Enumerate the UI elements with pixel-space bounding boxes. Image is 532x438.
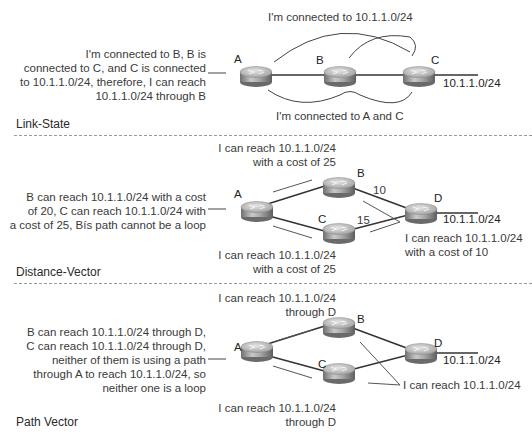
description-line: a cost of 25, Bís path cannot be a loop <box>10 218 206 232</box>
section-title-path-vector: Path Vector <box>16 415 78 429</box>
advert-c-to-a <box>273 366 312 378</box>
network-label: 10.1.1.0/24 <box>443 213 501 225</box>
cost-b-d: 10 <box>373 183 386 197</box>
router-a-label: A <box>234 188 242 200</box>
section-divider <box>14 135 532 136</box>
router-b-label: B <box>357 313 365 325</box>
advert-d-to-b <box>360 342 400 385</box>
annotation-line: through D <box>218 305 336 319</box>
router-b-label: B <box>357 167 365 179</box>
annotation-bottom: I can reach 10.1.1.0/24 through D <box>218 401 336 429</box>
annotation-right: I can reach 10.1.1.0/24 <box>403 378 521 392</box>
annotation-line: through D <box>218 415 336 429</box>
advert-c-to-a <box>273 226 312 238</box>
network-label: 10.1.1.0/24 <box>443 77 501 89</box>
link-state-graphics <box>208 33 478 103</box>
annotation-line: I can reach 10.1.1.0/24 <box>218 248 336 262</box>
description-line: connected to C, and C is connected <box>20 61 206 75</box>
router-c-label: C <box>431 54 439 66</box>
description-line: C can reach 10.1.1.0/24 through D, <box>26 339 206 353</box>
description-line: through A to reach 10.1.1.0/24, so <box>26 367 206 381</box>
description-line: of 20, C can reach 10.1.1.0/24 with <box>10 204 206 218</box>
annotation-line: with a cost of 25 <box>218 262 336 276</box>
router-d-label: D <box>434 192 442 204</box>
annotation-top: I'm connected to 10.1.1.0/24 <box>268 10 413 24</box>
section-title-distance-vector: Distance-Vector <box>16 265 101 279</box>
annotation-bottom: I can reach 10.1.1.0/24 with a cost of 2… <box>218 248 336 276</box>
distance-vector-description: B can reach 10.1.1.0/24 with a cost of 2… <box>10 190 206 232</box>
arc-b-to-a-c <box>268 90 412 103</box>
router-c-label: C <box>318 213 326 225</box>
description-line: neither of them is using a path <box>26 353 206 367</box>
annotation-line: I can reach 10.1.1.0/24 <box>218 291 336 305</box>
router-c-label: C <box>318 358 326 370</box>
annotation-line: I can reach 10.1.1.0/24 <box>218 141 336 155</box>
annotation-line: I can reach 10.1.1.0/24 <box>405 231 523 245</box>
annotation-line: with a cost of 10 <box>405 245 523 259</box>
router-icon <box>324 67 356 88</box>
annotation-top: I can reach 10.1.1.0/24 through D <box>218 291 336 319</box>
path-vector-graphics <box>208 318 478 386</box>
router-icon <box>323 178 355 199</box>
cost-c-d: 15 <box>357 213 370 227</box>
advert-d-to-c <box>368 383 400 385</box>
section-title-link-state: Link-State <box>16 117 70 131</box>
description-line: B can reach 10.1.1.0/24 with a cost <box>10 190 206 204</box>
description-line: B can reach 10.1.1.0/24 through D, <box>26 325 206 339</box>
router-icon <box>405 344 437 365</box>
router-icon <box>323 364 355 385</box>
link-b-d <box>350 327 412 350</box>
router-icon <box>240 67 272 88</box>
advert-b-to-a <box>273 330 312 342</box>
description-line: 10.1.1.0/24 through B <box>20 89 206 103</box>
annotation-line: with a cost of 25 <box>218 155 336 169</box>
router-icon <box>323 224 355 245</box>
annotation-line: I can reach 10.1.1.0/24 <box>218 401 336 415</box>
description-line: I'm connected to B, B is <box>20 47 206 61</box>
annotation-bottom: I'm connected to A and C <box>276 109 404 123</box>
description-line: to 10.1.1.0/24, therefore, I can reach <box>20 75 206 89</box>
router-a-label: A <box>234 341 242 353</box>
advert-b-to-a <box>273 180 312 192</box>
path-vector-description: B can reach 10.1.1.0/24 through D, C can… <box>26 325 206 395</box>
router-d-label: D <box>434 337 442 349</box>
router-icon <box>323 318 355 339</box>
link-c-d <box>350 354 412 370</box>
network-label: 10.1.1.0/24 <box>443 354 501 366</box>
section-divider <box>14 283 532 284</box>
annotation-right: I can reach 10.1.1.0/24 with a cost of 1… <box>405 231 523 259</box>
description-line: neither one is a loop <box>26 381 206 395</box>
router-icon <box>403 67 435 88</box>
router-icon <box>241 342 273 363</box>
link-state-description: I'm connected to B, B is connected to C,… <box>20 47 206 103</box>
arc-c-to-a <box>274 33 410 62</box>
router-icon <box>241 202 273 223</box>
router-icon <box>405 204 437 225</box>
router-b-label: B <box>316 54 324 66</box>
router-a-label: A <box>234 53 242 65</box>
annotation-top: I can reach 10.1.1.0/24 with a cost of 2… <box>218 141 336 169</box>
